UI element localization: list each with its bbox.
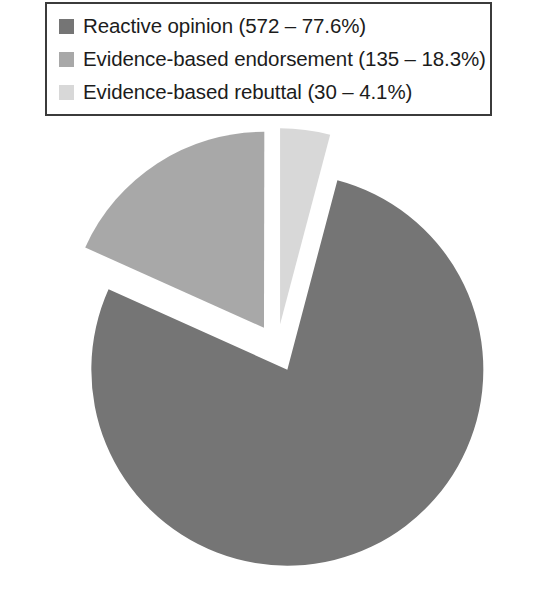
pie-svg bbox=[0, 118, 551, 593]
legend-item-reactive-opinion[interactable]: Reactive opinion (572 – 77.6%) bbox=[59, 11, 480, 41]
pie-plot-area bbox=[0, 118, 551, 593]
legend-item-evidence-based-endorsement[interactable]: Evidence-based endorsement (135 – 18.3%) bbox=[59, 44, 480, 74]
chart-legend: Reactive opinion (572 – 77.6%) Evidence-… bbox=[45, 2, 492, 116]
pie-chart-figure: Reactive opinion (572 – 77.6%) Evidence-… bbox=[0, 0, 551, 593]
legend-swatch-evidence-based-rebuttal bbox=[59, 85, 74, 100]
legend-swatch-reactive-opinion bbox=[59, 19, 74, 34]
legend-label-reactive-opinion: Reactive opinion (572 – 77.6%) bbox=[83, 15, 366, 37]
legend-label-evidence-based-rebuttal: Evidence-based rebuttal (30 – 4.1%) bbox=[83, 81, 412, 103]
legend-label-evidence-based-endorsement: Evidence-based endorsement (135 – 18.3%) bbox=[83, 48, 486, 70]
legend-swatch-evidence-based-endorsement bbox=[59, 52, 74, 67]
legend-item-evidence-based-rebuttal[interactable]: Evidence-based rebuttal (30 – 4.1%) bbox=[59, 77, 480, 107]
pie-slice-group bbox=[85, 128, 483, 565]
